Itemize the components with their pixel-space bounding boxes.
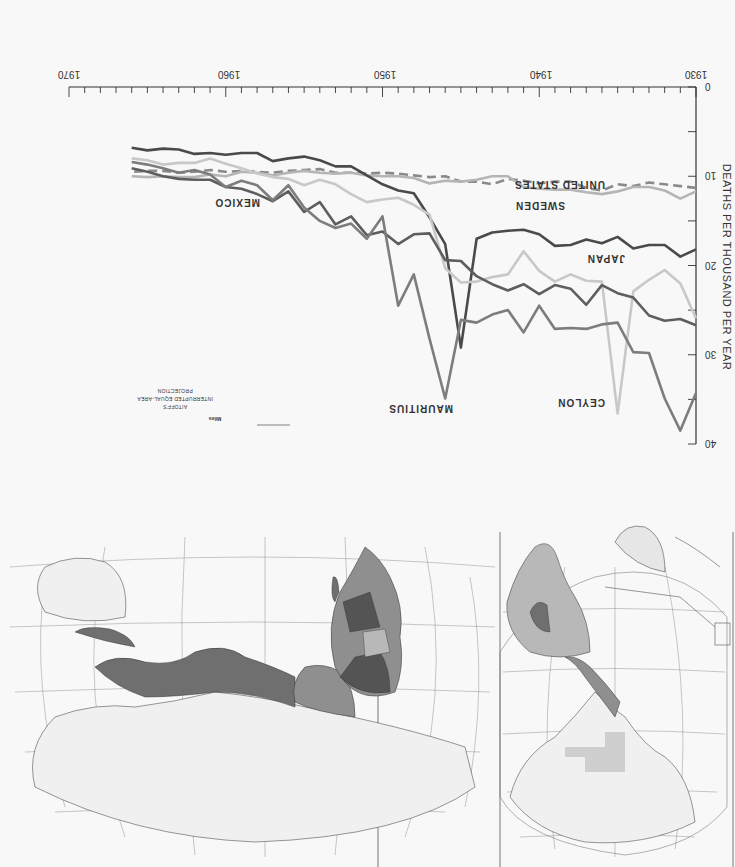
x-tick-1970: 1970 [57,69,80,80]
y-axis-title: DEATHS PER THOUSAND PER YEAR [721,164,733,371]
miles-title: Miles [209,416,222,422]
y-tick-20: 20 [705,260,717,271]
y-tick-10: 10 [705,170,717,181]
series-lines [132,148,696,431]
label-ceylon: CEYLON [557,397,605,408]
atlas-page: Miles AITOFF'S INTERRUPTED EQUAL-AREA PR… [0,0,735,867]
inset-box [715,623,730,645]
x-tick-labels: 1930 1940 1950 1960 1970 [57,69,707,80]
projection-caption-2: INTERRUPTED EQUAL-AREA [137,396,213,402]
label-mexico: MEXICO [215,197,260,208]
map-legend: Miles AITOFF'S INTERRUPTED EQUAL-AREA PR… [137,388,290,425]
world-map: Miles AITOFF'S INTERRUPTED EQUAL-AREA PR… [10,388,733,867]
y-tick-0: 0 [705,81,711,92]
australia [38,558,126,621]
y-ticks [688,87,696,444]
x-ticks [69,87,696,97]
label-sweden: SWEDEN [515,200,565,211]
y-tick-30: 30 [705,349,717,360]
x-tick-1950: 1950 [373,69,396,80]
label-mauritius: MAURITIUS [388,403,453,414]
eurasia [33,692,476,842]
projection-caption-3: PROJECTION [157,388,192,394]
south-america [507,544,590,657]
australia-inset [615,526,665,572]
y-tick-40: 40 [705,438,717,449]
x-tick-1960: 1960 [217,69,240,80]
sahara-light [363,629,390,657]
rotated-content: Miles AITOFF'S INTERRUPTED EQUAL-AREA PR… [0,0,735,867]
indonesia [75,628,135,647]
label-japan: JAPAN [587,253,625,264]
projection-caption-1: AITOFF'S [162,404,187,410]
eastern-lobe [10,537,495,857]
y-tick-labels: 0 10 20 30 40 [705,81,717,449]
page-canvas: Miles AITOFF'S INTERRUPTED EQUAL-AREA PR… [0,0,735,867]
x-tick-1930: 1930 [684,69,707,80]
americas-lobe [500,544,727,857]
x-tick-1940: 1940 [529,69,552,80]
pacific-inset [605,526,730,645]
label-united-states: UNITED STATES [514,179,605,190]
